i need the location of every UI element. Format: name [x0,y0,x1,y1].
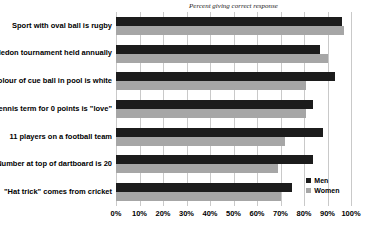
category-labels-column: Sport with oval ball is rugbyWimbledon t… [0,12,116,206]
legend-item-women: Women [306,187,339,194]
women-bar [116,54,328,63]
chart-body: Sport with oval ball is rugbyWimbledon t… [0,12,366,206]
men-bar [116,72,335,81]
x-axis-tick-label: 30% [179,209,194,218]
plot-area: MenWomen [116,12,351,206]
x-axis-tick-label: 100% [341,209,360,218]
men-bar [116,45,320,54]
x-axis-tick-label: 70% [273,209,288,218]
women-bar [116,26,344,35]
category-label: Sport with oval ball is rugby [0,12,116,40]
men-bar [116,155,313,164]
legend-swatch-men [306,178,311,183]
bar-group [116,67,351,95]
legend-swatch-women [306,188,311,193]
legend: MenWomen [306,177,339,194]
bar-group [116,151,351,179]
category-label: Tennis term for 0 points is "love" [0,95,116,123]
women-bar [116,81,306,90]
men-bar [116,100,313,109]
bar-group [116,95,351,123]
women-bar [116,109,306,118]
x-axis-tick-label: 20% [155,209,170,218]
x-axis-tick-label: 90% [320,209,335,218]
women-bar [116,192,281,201]
legend-label-men: Men [314,177,328,184]
category-label: "Hat trick" comes from cricket [0,178,116,206]
legend-label-women: Women [314,187,339,194]
women-bar [116,164,278,173]
chart-title: Percent giving correct response [116,2,351,11]
x-axis-tick-label: 60% [249,209,264,218]
bar-chart: Percent giving correct response Sport wi… [0,0,366,233]
gridline [351,12,352,206]
x-axis-tick-label: 0% [111,209,122,218]
x-axis: 0%10%20%30%40%50%60%70%80%90%100% [116,206,351,220]
x-axis-tick-label: 10% [132,209,147,218]
bar-group [116,123,351,151]
category-label: 11 players on a football team [0,123,116,151]
women-bar [116,137,285,146]
x-axis-tick-label: 80% [296,209,311,218]
men-bar [116,128,323,137]
x-axis-tick-label: 40% [202,209,217,218]
legend-item-men: Men [306,177,339,184]
category-label: Wimbledon tournament held annually [0,40,116,68]
men-bar [116,17,342,26]
category-label: Number at top of dartboard is 20 [0,151,116,179]
bar-group [116,12,351,40]
bar-group [116,40,351,68]
category-label: Colour of cue ball in pool is white [0,67,116,95]
x-axis-tick-label: 50% [226,209,241,218]
men-bar [116,183,292,192]
